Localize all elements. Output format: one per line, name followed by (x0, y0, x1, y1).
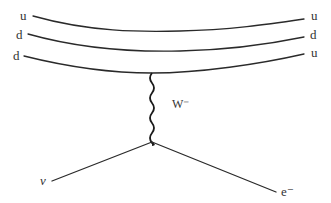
label-out-u2: u (311, 46, 318, 59)
quark-line-1 (33, 16, 304, 31)
label-w-boson: W⁻ (172, 98, 189, 110)
neutrino-line (52, 142, 152, 181)
label-electron: e⁻ (281, 185, 294, 198)
quark-line-3 (24, 54, 304, 73)
w-boson-line (150, 73, 154, 145)
label-in-d2: d (13, 49, 20, 62)
label-neutrino: ν (40, 174, 46, 187)
quark-line-2 (28, 34, 304, 51)
label-out-u1: u (311, 9, 318, 22)
label-in-d1: d (16, 28, 23, 41)
label-in-u: u (20, 9, 27, 22)
feynman-diagram (0, 0, 331, 203)
label-out-d: d (310, 28, 317, 41)
electron-line (152, 142, 276, 192)
